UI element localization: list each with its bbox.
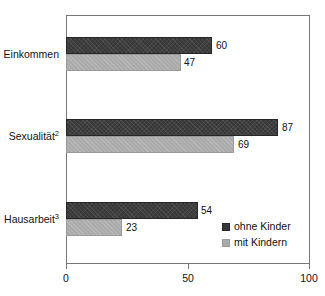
bar-chart: 60 47 Einkommen 87 69 Sexualität2 54 23 … (0, 0, 325, 296)
x-axis-tick-label-50: 50 (182, 272, 194, 284)
bar-sexualitaet-mit-kindern (66, 136, 234, 153)
category-footnote-sexualitaet: 2 (55, 129, 59, 138)
legend-swatch-icon-ohne-kinder (222, 223, 230, 231)
bar-value-einkommen-ohne-kinder: 60 (216, 41, 227, 51)
bar-hausarbeit-ohne-kinder (66, 202, 198, 219)
legend-swatch-icon-mit-kindern (222, 239, 230, 247)
legend-item-ohne-kinder: ohne Kinder (222, 221, 291, 232)
x-axis-tick-50 (188, 264, 189, 269)
x-axis-tick-label-0: 0 (63, 272, 69, 284)
chart-title-remnant (0, 0, 325, 3)
category-label-sexualitaet-text: Sexualität (9, 130, 55, 142)
bar-hausarbeit-mit-kindern (66, 219, 122, 236)
category-label-einkommen-text: Einkommen (4, 48, 59, 60)
legend-item-mit-kindern: mit Kindern (222, 237, 291, 248)
bar-value-einkommen-mit-kindern: 47 (184, 58, 195, 68)
legend-label-mit-kindern: mit Kindern (234, 237, 287, 248)
bar-einkommen-mit-kindern (66, 54, 181, 71)
x-axis-tick-100 (309, 264, 310, 269)
bar-value-sexualitaet-ohne-kinder: 87 (282, 123, 293, 133)
category-label-einkommen: Einkommen (0, 49, 59, 60)
category-label-hausarbeit: Hausarbeit3 (0, 214, 59, 225)
bar-einkommen-ohne-kinder (66, 37, 212, 54)
category-label-hausarbeit-text: Hausarbeit (4, 213, 55, 225)
bar-value-sexualitaet-mit-kindern: 69 (238, 140, 249, 150)
category-footnote-hausarbeit: 3 (55, 212, 59, 221)
bar-value-hausarbeit-ohne-kinder: 54 (201, 206, 212, 216)
legend-label-ohne-kinder: ohne Kinder (234, 221, 291, 232)
x-axis-tick-label-100: 100 (300, 272, 318, 284)
bar-value-hausarbeit-mit-kindern: 23 (126, 223, 137, 233)
bar-sexualitaet-ohne-kinder (66, 119, 278, 136)
x-axis-tick-0 (66, 264, 67, 269)
category-label-sexualitaet: Sexualität2 (0, 131, 59, 142)
chart-legend: ohne Kinder mit Kindern (222, 221, 291, 248)
